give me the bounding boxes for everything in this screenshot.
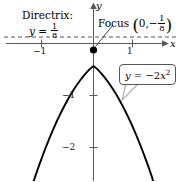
- y-tick-label-neg2: −2: [62, 143, 75, 152]
- x-axis-label: x: [170, 39, 176, 49]
- directrix-equals: =: [38, 25, 47, 37]
- focus-close-paren: ): [166, 16, 172, 35]
- directrix-denominator: 8: [51, 30, 58, 40]
- focus-label: Focus: [98, 17, 129, 29]
- focus-x-value: 0,: [139, 17, 149, 29]
- focus-denominator: 8: [158, 23, 165, 33]
- directrix-equation: y = 1 8: [29, 22, 73, 40]
- x-tick-label-neg1: −1: [33, 47, 46, 56]
- directrix-annotation: Directrix: y = 1 8: [22, 10, 73, 40]
- focus-point-marker: [90, 46, 97, 53]
- focus-minus-sign: −: [149, 17, 158, 29]
- y-axis-label: y: [96, 1, 102, 11]
- x-axis: [6, 40, 169, 47]
- directrix-title: Directrix:: [22, 10, 73, 21]
- y-axis: [90, 3, 97, 182]
- equation-coefficient: −2: [145, 70, 160, 81]
- parabola-figure: Directrix: y = 1 8 Focus (0,− 1 8 ) y = …: [0, 0, 183, 181]
- equation-callout: y = −2x2: [119, 64, 176, 85]
- equation-lhs: y: [125, 70, 131, 81]
- focus-fraction: 1 8: [158, 14, 165, 32]
- directrix-lhs: y: [29, 25, 35, 37]
- equation-exponent: 2: [166, 68, 171, 77]
- directrix-numerator: 1: [51, 22, 58, 31]
- directrix-fraction: 1 8: [51, 22, 58, 40]
- callout-tail: [122, 84, 138, 100]
- focus-annotation: Focus (0,− 1 8 ): [98, 14, 172, 34]
- focus-numerator: 1: [158, 14, 165, 23]
- y-tick-label-neg1: −1: [62, 91, 75, 100]
- x-tick-label-pos1: 1: [127, 47, 133, 56]
- equation-equals: =: [134, 70, 142, 81]
